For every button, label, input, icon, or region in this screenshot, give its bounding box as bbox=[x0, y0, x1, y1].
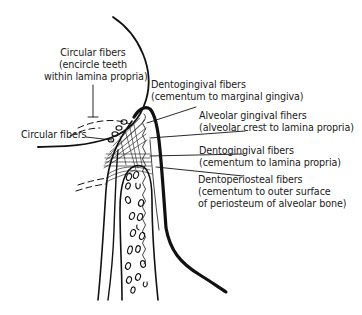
label-title: Alveolar gingival fihers bbox=[199, 110, 354, 122]
circular-fibers-dashed-lowest bbox=[76, 184, 106, 191]
bone-marrow-spaces bbox=[125, 171, 148, 294]
label-description: within lamina propria) bbox=[44, 71, 142, 83]
label-dentoperiosteal: Dentoperiosteal fibers (cementum to oute… bbox=[198, 174, 346, 210]
label-title: Dentogingival fibers bbox=[199, 145, 341, 157]
label-dentogingival-marginal: Dentogingival fibers (cementum to margin… bbox=[151, 79, 304, 103]
label-description: (alveolar crest to lamina propria) bbox=[199, 122, 354, 134]
label-alveolar-gingival: Alveolar gingival fihers (alveolar crest… bbox=[199, 110, 354, 134]
label-description: (encircle teeth bbox=[44, 59, 142, 71]
label-title: Dentogingival fibers bbox=[151, 79, 304, 91]
label-title: Circular fibers bbox=[44, 47, 142, 59]
gingival-fibers-diagram: Circular fibers (encircle teeth within l… bbox=[0, 0, 362, 315]
label-description: (cementum to outer surface bbox=[198, 186, 346, 198]
label-description: of periosteum of alveolar bone) bbox=[198, 198, 346, 210]
label-circular-fibers-top: Circular fibers (encircle teeth within l… bbox=[44, 47, 142, 83]
circular-fibers-dashed-lower bbox=[78, 178, 108, 185]
label-description: (cementum to marginal gingiva) bbox=[151, 91, 304, 103]
label-title: Dentoperiosteal fibers bbox=[198, 174, 346, 186]
label-circular-fibers-left: Circular fibers bbox=[21, 129, 86, 141]
tooth-root-outline-inner bbox=[108, 150, 118, 300]
label-title: Circular fibers bbox=[21, 129, 86, 141]
label-description: (cementum to lamina propria) bbox=[199, 157, 341, 169]
leader-circular-top bbox=[88, 85, 98, 117]
label-dentogingival-lamina: Dentogingival fibers (cementum to lamina… bbox=[199, 145, 341, 169]
